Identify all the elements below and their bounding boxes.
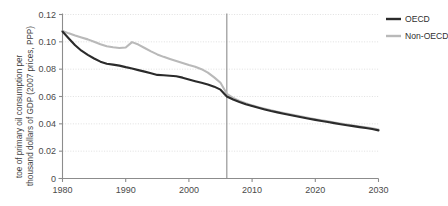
y-tick-label: 0.06: [38, 92, 56, 102]
x-tick-label: 2010: [242, 185, 262, 195]
y-tick-labels: 00.020.040.060.080.100.12: [38, 10, 56, 184]
y-tick-label: 0.08: [38, 64, 56, 74]
x-tick-labels: 198019902000201020202030: [52, 185, 388, 195]
y-tick-label: 0.04: [38, 119, 56, 129]
y-axis-label-line-1: toe of primary oil consumption per: [15, 54, 24, 178]
series-line-non-oecd: [63, 31, 379, 130]
chart-canvas: 00.020.040.060.080.100.12 19801990200020…: [0, 0, 448, 206]
y-tick-label: 0.12: [38, 10, 56, 20]
x-tick-label: 2020: [305, 185, 325, 195]
legend-label-oecd: OECD: [405, 14, 430, 24]
y-tick-label: 0.10: [38, 37, 56, 47]
y-tick-label: 0.02: [38, 146, 56, 156]
chart-legend: OECDNon-OECD: [386, 14, 448, 41]
legend-label-non-oecd: Non-OECD: [405, 31, 448, 41]
y-tick-label: 0: [51, 174, 56, 184]
x-tick-label: 1990: [116, 185, 136, 195]
y-axis-label-line-2: thousand dollars of GDP (2007 prices, PP…: [26, 26, 35, 186]
y-axis-label: toe of primary oil consumption per thous…: [15, 26, 35, 186]
x-tick-label: 2030: [368, 185, 388, 195]
axes: [59, 14, 379, 179]
x-tick-label: 1980: [52, 185, 72, 195]
x-tick-label: 2000: [179, 185, 199, 195]
series-layer: [63, 31, 379, 130]
chart-figure: 00.020.040.060.080.100.12 19801990200020…: [0, 0, 448, 206]
